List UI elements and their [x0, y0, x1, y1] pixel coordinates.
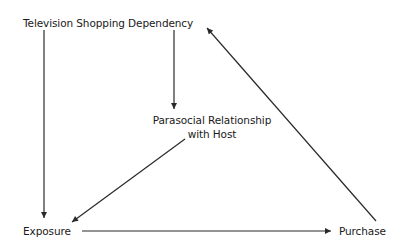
node-purchase: Purchase — [339, 224, 386, 238]
node-exposure: Exposure — [23, 224, 71, 238]
arrow-parasocial-to-exposure — [72, 139, 185, 222]
node-television-shopping-dependency: Television Shopping Dependency — [23, 16, 193, 30]
node-parasocial-relationship: Parasocial Relationship with Host — [146, 113, 278, 141]
node-parasocial-line1: Parasocial Relationship — [146, 113, 278, 127]
node-parasocial-line2: with Host — [146, 127, 278, 141]
diagram-canvas: Television Shopping Dependency Parasocia… — [0, 0, 408, 252]
